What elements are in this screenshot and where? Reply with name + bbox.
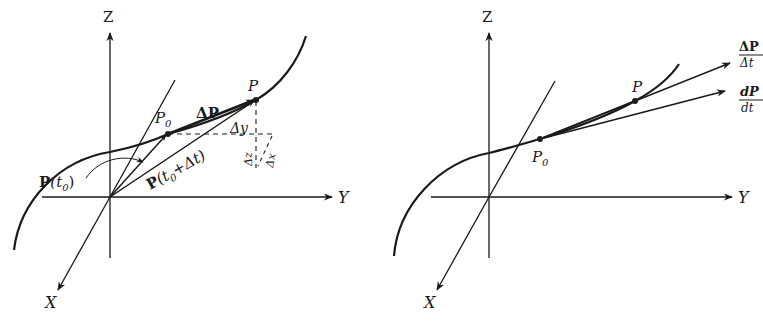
- point-p: [632, 98, 638, 104]
- vector-p-t0-dt: [110, 101, 254, 197]
- x-axis-back: [489, 81, 555, 197]
- y-axis-label: Y: [338, 188, 350, 207]
- delta-y-label: Δy: [229, 120, 249, 136]
- p0-label: P0: [154, 109, 172, 129]
- left-figure: Z Y X P0 P ΔP Δy Δz Δx P(t0) P(t0+Δt): [14, 8, 350, 312]
- x-axis: [58, 197, 110, 290]
- angle-arc: [86, 158, 143, 178]
- delta-p-label: ΔP: [196, 104, 219, 122]
- p-label: P: [247, 77, 259, 95]
- x-axis: [437, 197, 489, 290]
- p-t0-dt-label: P(t0+Δt): [143, 146, 210, 195]
- svg-text:Δt: Δt: [739, 56, 754, 70]
- y-axis-label: Y: [738, 188, 750, 207]
- delta-x-label: Δx: [263, 152, 279, 170]
- secant-ratio-label: ΔP Δt: [739, 39, 763, 70]
- point-p: [253, 97, 259, 103]
- diagram-canvas: Z Y X P0 P ΔP Δy Δz Δx P(t0) P(t0+Δt) Z …: [0, 0, 763, 332]
- tangent-ratio-label: dP dt: [739, 84, 763, 115]
- p-label: P: [631, 78, 643, 96]
- point-p0: [165, 131, 171, 137]
- point-p0: [537, 136, 543, 142]
- tangent-ray: [540, 91, 725, 139]
- z-axis-label: Z: [103, 8, 113, 26]
- p0-label: P0: [531, 148, 549, 168]
- svg-text:dt: dt: [741, 101, 754, 115]
- x-axis-label: X: [422, 293, 436, 312]
- z-axis-label: Z: [482, 8, 492, 26]
- chord-p0-p: [540, 101, 635, 139]
- svg-text:dP: dP: [740, 84, 760, 99]
- svg-text:ΔP: ΔP: [739, 39, 759, 54]
- x-axis-label: X: [43, 293, 57, 312]
- space-curve: [14, 36, 306, 250]
- p-t0-label: P(t0): [39, 173, 74, 193]
- delta-z-label: Δz: [242, 152, 255, 167]
- right-figure: Z Y X P0 P ΔP Δt dP dt: [394, 8, 763, 312]
